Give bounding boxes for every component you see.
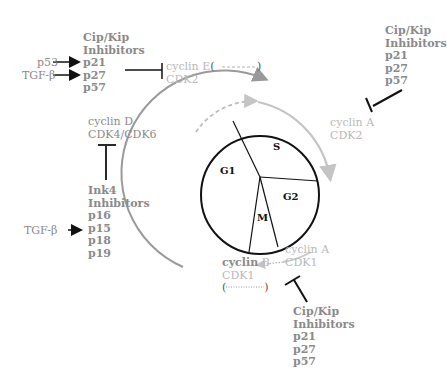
cipkip-bottom: Cip/Kip Inhibitors p21 p27 p57 (293, 306, 355, 369)
input-tgf-beta-left: TGF-β (24, 225, 57, 238)
cyclin-d-cdk46-label: cyclin D CDK4/CDK6 (88, 116, 157, 141)
inhibition-line-cyclin-a-cdk1 (294, 280, 307, 302)
input-tgf-beta-top: TGF-β (22, 70, 55, 83)
phase-s: S (273, 141, 280, 152)
cipkip-top-right: Cip/Kip Inhibitors p21 p27 p57 (385, 25, 447, 88)
input-p53: p53 (37, 57, 58, 70)
cyclin-e-cdk2-label: cyclin E( CDK2 (166, 61, 214, 86)
ink4-inhibitors: Ink4 Inhibitors p16 p15 p18 p19 (88, 185, 150, 260)
cyclin-a-cdk2-label: cyclin A CDK2 (330, 117, 374, 142)
inhibition-line-cyclin-a-cdk2 (373, 90, 402, 106)
cyclin-a-cdk1-label: cyclin A CDK1 (285, 244, 329, 269)
phase-m: M (257, 212, 268, 223)
phase-g2: G2 (283, 191, 299, 202)
cipkip-members-top-left: p21 p27 p57 (83, 57, 106, 95)
cipkip-title-top-left: Cip/Kip Inhibitors (83, 32, 145, 57)
dashed-arc-s (196, 101, 255, 132)
cell-cycle-circle (201, 136, 319, 254)
phase-g1: G1 (220, 165, 236, 176)
cyclin-b-cdk1-label: cyclin B CDK1 () (222, 257, 270, 295)
cyclin-e-close-paren: ) (257, 61, 261, 74)
